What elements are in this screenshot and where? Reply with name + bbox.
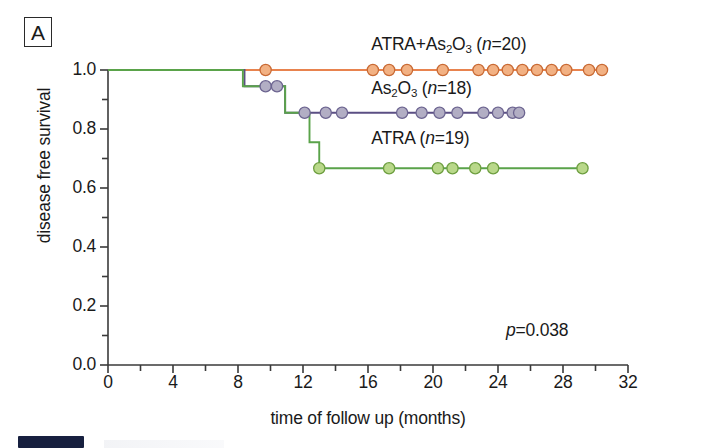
censor-marker-atra [432, 163, 443, 174]
censor-marker-atra-as2o3 [546, 64, 557, 75]
censor-marker-atra [314, 163, 325, 174]
censor-marker-as2o3 [271, 81, 282, 92]
x-tick-label: 4 [153, 372, 193, 393]
y-tick-label: 0.4 [50, 236, 96, 257]
series-label-as2o3: As2O3 (n=18) [371, 78, 471, 99]
censor-marker-as2o3 [320, 107, 331, 118]
y-tick-label: 1.0 [50, 59, 96, 80]
censor-marker-atra-as2o3 [401, 64, 412, 75]
censor-marker-atra-as2o3 [502, 64, 513, 75]
panel-label: A [24, 17, 52, 47]
censor-marker-atra [488, 163, 499, 174]
series-label-atra: ATRA (n=19) [371, 128, 469, 149]
censor-marker-atra-as2o3 [596, 64, 607, 75]
y-tick-label: 0.2 [50, 295, 96, 316]
censor-marker-as2o3 [514, 107, 525, 118]
censor-marker-as2o3 [299, 107, 310, 118]
censor-marker-as2o3 [397, 107, 408, 118]
censor-marker-as2o3 [336, 107, 347, 118]
y-tick-label: 0.8 [50, 118, 96, 139]
censor-marker-atra-as2o3 [561, 64, 572, 75]
censor-marker-as2o3 [260, 81, 271, 92]
censor-marker-atra-as2o3 [583, 64, 594, 75]
censor-marker-atra [447, 163, 458, 174]
x-tick-label: 32 [608, 372, 648, 393]
censor-marker-atra-as2o3 [260, 64, 271, 75]
page-artifact-bar [18, 436, 84, 448]
censor-marker-as2o3 [492, 107, 503, 118]
censor-marker-atra-as2o3 [531, 64, 542, 75]
censor-marker-atra-as2o3 [517, 64, 528, 75]
censor-marker-atra-as2o3 [384, 64, 395, 75]
curves-layer [108, 70, 604, 168]
p-value-annotation: p=0.038 [506, 320, 568, 341]
censor-marker-atra-as2o3 [367, 64, 378, 75]
x-tick-label: 24 [478, 372, 518, 393]
censor-marker-as2o3 [478, 107, 489, 118]
censor-marker-atra [470, 163, 481, 174]
figure-panel-a: A disease free survival time of follow u… [0, 0, 704, 448]
x-tick-label: 16 [348, 372, 388, 393]
censor-marker-atra-as2o3 [488, 64, 499, 75]
curve-atra [108, 70, 583, 168]
censor-marker-atra-as2o3 [437, 64, 448, 75]
censor-marker-as2o3 [452, 107, 463, 118]
x-tick-label: 12 [283, 372, 323, 393]
censor-marker-as2o3 [416, 107, 427, 118]
x-axis-label: time of follow up (months) [108, 408, 628, 429]
x-tick-label: 0 [88, 372, 128, 393]
series-label-atra-as2o3: ATRA+As2O3 (n=20) [371, 34, 526, 55]
y-tick-label: 0.6 [50, 177, 96, 198]
x-tick-label: 20 [413, 372, 453, 393]
censor-marker-as2o3 [434, 107, 445, 118]
x-tick-label: 28 [543, 372, 583, 393]
x-tick-label: 8 [218, 372, 258, 393]
censor-marker-atra-as2o3 [473, 64, 484, 75]
page-artifact-ghost [104, 440, 224, 448]
censor-marker-atra [384, 163, 395, 174]
censor-marker-atra [577, 163, 588, 174]
